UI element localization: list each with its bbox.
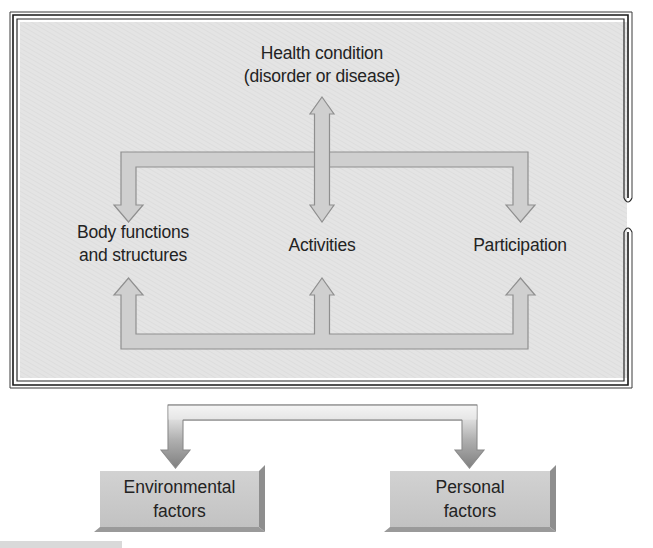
health-condition-node: Health condition (disorder or disease) [222, 42, 422, 88]
personal-factors-box: Personal factors [390, 472, 550, 526]
participation-node: Participation [455, 234, 585, 257]
activities-node: Activities [262, 234, 382, 257]
environmental-factors-line2: factors [153, 499, 206, 523]
health-condition-title: Health condition [222, 42, 422, 65]
environmental-factors-box: Environmental factors [100, 472, 259, 526]
personal-factors-line2: factors [444, 499, 497, 523]
environmental-factors-line1: Environmental [124, 475, 236, 499]
activities-label: Activities [262, 234, 382, 257]
body-functions-line2: and structures [58, 244, 208, 267]
body-functions-node: Body functions and structures [58, 221, 208, 267]
icf-diagram: Health condition (disorder or disease) B… [0, 0, 653, 548]
health-condition-subtitle: (disorder or disease) [222, 65, 422, 88]
personal-factors-line1: Personal [435, 475, 504, 499]
page-edge-strip [0, 541, 122, 548]
body-functions-line1: Body functions [58, 221, 208, 244]
participation-label: Participation [455, 234, 585, 257]
contextual-factors-connector [161, 405, 484, 468]
